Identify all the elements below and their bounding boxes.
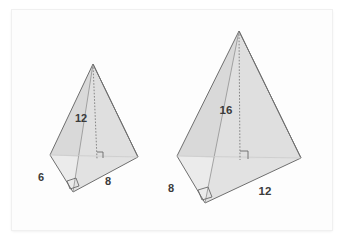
small-pyramid: 12 6 8 xyxy=(38,64,138,192)
large-pyramid: 16 8 12 xyxy=(168,31,301,203)
large-pyramid-base-left-label: 8 xyxy=(168,182,174,194)
geometry-diagram: 12 6 8 xyxy=(0,0,344,240)
small-pyramid-height-label: 12 xyxy=(75,112,87,124)
small-pyramid-base-right-label: 8 xyxy=(105,175,111,187)
figure-canvas: 12 6 8 xyxy=(0,0,344,240)
small-pyramid-base-left-label: 6 xyxy=(38,171,44,183)
large-pyramid-base-right-label: 12 xyxy=(259,185,272,197)
large-pyramid-height-label: 16 xyxy=(220,104,233,116)
